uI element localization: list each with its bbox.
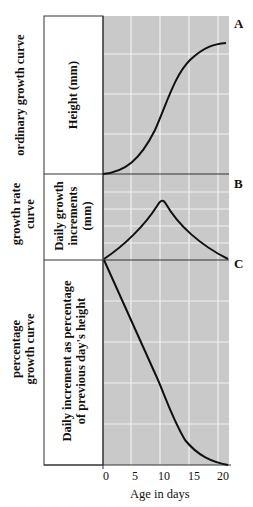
x-tick-20: 20 — [217, 469, 229, 484]
y-label-daily-growth-line1: Daily growth — [52, 171, 66, 261]
side-label-growth-rate: growth rate curve — [9, 169, 37, 259]
side-label-growth-rate-line1: growth rate — [9, 169, 23, 259]
y-label-daily-growth-increments: Daily growth increments (mm) — [52, 171, 94, 261]
side-label-ordinary-growth: ordinary growth curve — [13, 15, 27, 175]
side-label-percentage-line1: percentage — [9, 294, 23, 404]
x-tick-5: 5 — [132, 469, 138, 484]
side-label-percentage-growth: percentage growth curve — [9, 294, 37, 404]
y-label-percentage-line1: Daily increment as percentage — [60, 266, 74, 456]
curve-letter-b: B — [234, 176, 243, 192]
side-label-percentage-line2: growth curve — [23, 294, 37, 404]
curve-letter-c: C — [234, 256, 243, 272]
side-label-growth-rate-line2: curve — [23, 169, 37, 259]
y-label-percentage-line2: of previous day's height — [74, 266, 88, 456]
x-axis-label: Age in days — [130, 487, 190, 502]
y-label-daily-increment-percentage: Daily increment as percentage of previou… — [60, 266, 88, 456]
x-tick-15: 15 — [188, 469, 200, 484]
y-label-daily-growth-line3: (mm) — [80, 171, 94, 261]
curve-letter-a: A — [234, 16, 243, 32]
y-label-height: Height (mm) — [66, 50, 80, 140]
growth-curves-figure — [0, 0, 253, 507]
x-tick-10: 10 — [158, 469, 170, 484]
x-tick-0: 0 — [103, 469, 109, 484]
y-label-daily-growth-line2: increments — [66, 171, 80, 261]
